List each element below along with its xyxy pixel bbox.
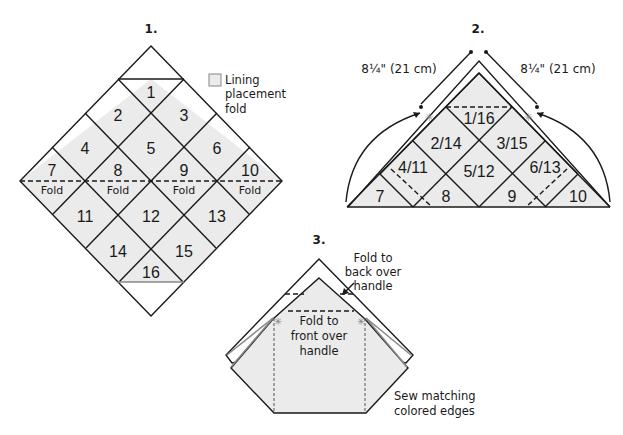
- front-fold-note: handle: [299, 344, 338, 358]
- square-4: 4: [81, 140, 90, 157]
- square-8: 8: [442, 188, 451, 205]
- diagram-3: 3. ✳ ✳ Fold to back over handle Fold to …: [226, 233, 476, 418]
- square-12: 12: [142, 208, 160, 225]
- step-3-label: 3.: [313, 233, 326, 247]
- fold-label: Fold: [173, 184, 196, 197]
- asterisk-icon: ✳: [274, 316, 282, 327]
- square-16: 16: [142, 264, 160, 281]
- fold-label: Fold: [239, 184, 262, 197]
- bottom-unfilled-triangle: [118, 282, 184, 315]
- legend-swatch: [209, 74, 221, 86]
- fold-label: Fold: [107, 184, 130, 197]
- square-2-14: 2/14: [430, 135, 461, 152]
- square-4-11: 4/11: [398, 159, 428, 176]
- asterisk-icon: ✳: [357, 316, 365, 327]
- sew-note: Sew matching: [394, 389, 476, 403]
- square-1: 1: [147, 84, 156, 101]
- square-6-13: 6/13: [529, 159, 560, 176]
- back-fold-note: handle: [353, 279, 392, 293]
- square-10: 10: [241, 162, 259, 179]
- square-10: 10: [569, 188, 587, 205]
- legend-text: placement: [225, 87, 287, 101]
- fold-label: Fold: [41, 184, 64, 197]
- back-fold-note: back over: [345, 265, 402, 279]
- left-measurement: 8¼" (21 cm): [361, 62, 436, 76]
- square-6: 6: [213, 140, 222, 157]
- square-11: 11: [77, 208, 94, 225]
- diagram-2: 2. 8¼" (21 cm) 8¼" (21 cm): [346, 22, 610, 207]
- step-1-label: 1.: [145, 22, 158, 36]
- square-5-12: 5/12: [463, 163, 494, 180]
- square-7: 7: [48, 162, 57, 179]
- square-9: 9: [508, 188, 517, 205]
- square-3-15: 3/15: [496, 135, 527, 152]
- sew-note: colored edges: [394, 404, 475, 418]
- square-7: 7: [376, 188, 385, 205]
- square-8: 8: [114, 162, 123, 179]
- square-2: 2: [114, 107, 123, 124]
- square-15: 15: [175, 243, 193, 260]
- front-fold-note: Fold to: [300, 314, 339, 328]
- top-unfilled-triangle: [118, 46, 184, 79]
- square-1-16: 1/16: [463, 110, 494, 127]
- square-13: 13: [208, 208, 226, 225]
- legend-text: fold: [225, 102, 247, 116]
- square-14: 14: [109, 243, 127, 260]
- legend-text: Lining: [225, 73, 260, 87]
- step-2-label: 2.: [472, 22, 485, 36]
- square-5: 5: [147, 140, 156, 157]
- asterisk-icon: ✳: [424, 111, 433, 124]
- square-3: 3: [180, 107, 189, 124]
- right-measurement: 8¼" (21 cm): [520, 62, 595, 76]
- asterisk-icon: ✳: [523, 111, 532, 124]
- diagram-1: 1. 1 2 3 4 5 6 7 8 9 10 11 12 13 14: [20, 22, 287, 316]
- front-fold-note: front over: [291, 329, 348, 343]
- square-9: 9: [180, 162, 189, 179]
- back-fold-note: Fold to: [354, 251, 393, 265]
- sewing-diagram: 1. 1 2 3 4 5 6 7 8 9 10 11 12 13 14: [0, 0, 623, 435]
